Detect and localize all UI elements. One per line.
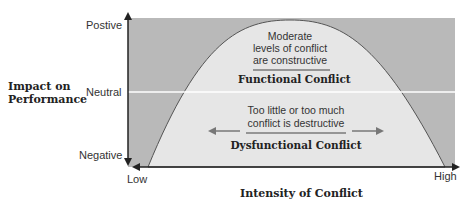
y-tick-positive: Postive [86, 19, 122, 31]
y-tick-neutral: Neutral [86, 86, 121, 98]
functional-title: Functional Conflict [238, 73, 348, 85]
functional-line2: levels of conflict [240, 42, 340, 54]
y-tick-negative: Negative [79, 149, 122, 161]
y-axis-label-line1: Impact on [8, 80, 87, 93]
dysfunctional-line2: conflict is destructive [238, 117, 354, 130]
y-axis-label: Impact on Performance [8, 80, 87, 106]
x-tick-low: Low [127, 173, 147, 185]
dysfunctional-description: Too little or too much conflict is destr… [238, 104, 354, 130]
x-axis-label: Intensity of Conflict [240, 187, 363, 200]
functional-description: Moderate levels of conflict are construc… [240, 30, 340, 66]
x-tick-high: High [434, 170, 457, 182]
y-axis-arrow-up-icon [124, 12, 132, 20]
y-axis-label-line2: Performance [8, 93, 87, 106]
dysfunctional-title: Dysfunctional Conflict [226, 139, 366, 151]
functional-line3: are constructive [240, 54, 340, 66]
dysfunctional-line1: Too little or too much [238, 104, 354, 117]
functional-line1: Moderate [240, 30, 340, 42]
